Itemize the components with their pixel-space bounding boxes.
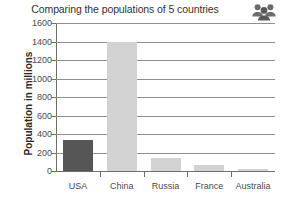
x-tick-mark bbox=[187, 172, 188, 177]
bar-chart: Comparing the populations of 5 countries… bbox=[0, 0, 284, 206]
y-axis-ticks: 02004006008001000120014001600 bbox=[0, 0, 52, 206]
bar-usa[interactable] bbox=[63, 140, 93, 171]
bar-china[interactable] bbox=[107, 42, 137, 171]
y-tick-label: 1200 bbox=[6, 55, 52, 65]
y-tick-label: 1000 bbox=[6, 74, 52, 84]
y-tick-label: 600 bbox=[6, 111, 52, 121]
gridline bbox=[56, 23, 275, 24]
gridline bbox=[56, 79, 275, 80]
y-tick-label: 1400 bbox=[6, 37, 52, 47]
x-tick-mark bbox=[100, 172, 101, 177]
x-tick-label-france: France bbox=[195, 181, 223, 191]
x-tick-mark bbox=[144, 172, 145, 177]
y-tick-label: 200 bbox=[6, 148, 52, 158]
plot-area bbox=[56, 23, 275, 171]
y-tick-label: 800 bbox=[6, 92, 52, 102]
y-tick-label: 0 bbox=[6, 166, 52, 176]
y-tick-label: 400 bbox=[6, 129, 52, 139]
people-group-icon bbox=[251, 3, 277, 21]
y-tick-label: 1600 bbox=[6, 18, 52, 28]
x-tick-label-australia: Australia bbox=[236, 181, 271, 191]
x-axis-line bbox=[56, 171, 275, 172]
x-tick-label-china: China bbox=[110, 181, 134, 191]
gridline bbox=[56, 116, 275, 117]
bar-russia[interactable] bbox=[151, 158, 181, 171]
x-tick-mark bbox=[231, 172, 232, 177]
x-tick-label-russia: Russia bbox=[152, 181, 180, 191]
gridline bbox=[56, 42, 275, 43]
gridline bbox=[56, 134, 275, 135]
gridline bbox=[56, 97, 275, 98]
x-tick-label-usa: USA bbox=[69, 181, 88, 191]
gridline bbox=[56, 60, 275, 61]
